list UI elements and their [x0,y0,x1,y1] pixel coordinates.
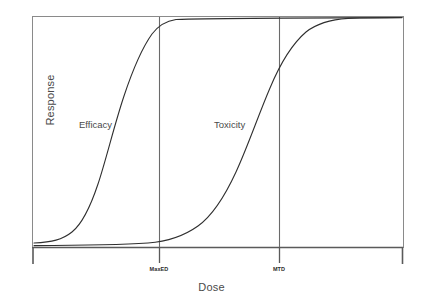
dose-response-figure: Response Dose Efficacy Toxicity MaxED MT… [0,0,423,304]
efficacy-curve-label: Efficacy [79,119,112,130]
toxicity-curve-label: Toxicity [214,119,245,130]
x-axis-title: Dose [0,281,423,293]
x-axis-tick-label-maxed: MaxED [139,266,179,272]
chart-canvas [0,0,423,304]
y-axis-title: Response [44,60,56,140]
toxicity-curve [34,18,402,246]
plot-frame [33,17,404,248]
efficacy-curve [34,18,402,243]
x-axis-tick-label-mtd: MTD [259,266,299,272]
